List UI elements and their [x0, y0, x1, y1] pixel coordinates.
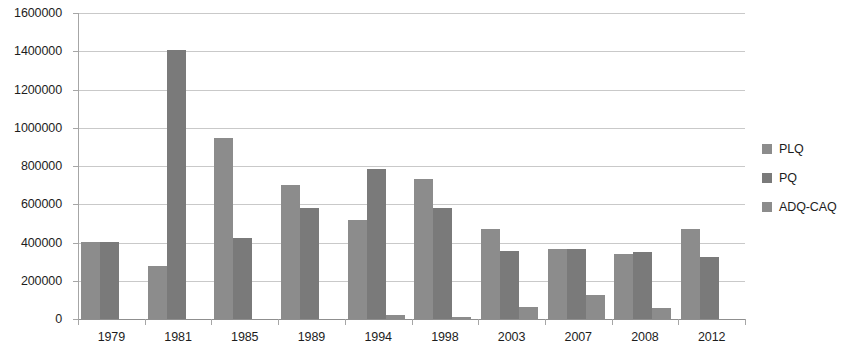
- legend-item-plq: PLQ: [762, 134, 842, 163]
- x-axis-tick-mark: [545, 319, 546, 325]
- x-axis-tick-mark: [745, 319, 746, 325]
- legend-swatch-icon: [762, 202, 772, 212]
- legend-item-adq-caq: ADQ-CAQ: [762, 192, 842, 221]
- x-axis-tick-label: 2008: [631, 330, 658, 344]
- x-axis-tick-mark: [345, 319, 346, 325]
- x-axis-tick-label: 2003: [498, 330, 525, 344]
- bar: [214, 138, 233, 319]
- x-axis-tick-mark: [612, 319, 613, 325]
- y-axis-tick-label: 200000: [21, 274, 62, 288]
- x-axis-tick-label: 1985: [231, 330, 258, 344]
- bar-chart: 1600000140000012000001000000800000600000…: [0, 0, 843, 351]
- x-axis-tick-mark: [678, 319, 679, 325]
- y-axis: 1600000140000012000001000000800000600000…: [0, 0, 72, 351]
- x-axis-tick-mark: [211, 319, 212, 325]
- bar: [300, 208, 319, 319]
- x-axis-tick-label: 1994: [364, 330, 391, 344]
- y-axis-tick-label: 1600000: [14, 6, 62, 20]
- plot-area: [78, 13, 745, 319]
- bar: [681, 229, 700, 319]
- legend-item-pq: PQ: [762, 163, 842, 192]
- bar: [100, 242, 119, 319]
- bar: [233, 238, 252, 319]
- bar: [367, 169, 386, 319]
- bar: [567, 249, 586, 319]
- bar: [167, 50, 186, 319]
- bar: [481, 229, 500, 319]
- bar: [433, 208, 452, 319]
- y-axis-tick-label: 0: [55, 312, 62, 326]
- x-axis-tick-mark: [412, 319, 413, 325]
- y-axis-tick-label: 600000: [21, 197, 62, 211]
- y-axis-tick-label: 800000: [21, 159, 62, 173]
- bar: [281, 185, 300, 319]
- bar: [614, 254, 633, 319]
- x-axis-tick-label: 1979: [98, 330, 125, 344]
- x-axis-tick-mark: [278, 319, 279, 325]
- gridline: [79, 13, 745, 14]
- bar: [348, 220, 367, 319]
- legend-item-label: PLQ: [779, 142, 804, 156]
- x-axis-tick-mark: [145, 319, 146, 325]
- bar: [519, 307, 538, 319]
- x-axis-tick-mark: [478, 319, 479, 325]
- x-axis-tick-label: 1989: [298, 330, 325, 344]
- bar: [148, 266, 167, 319]
- x-axis-tick-mark: [78, 319, 79, 325]
- y-axis-tick-label: 1400000: [14, 44, 62, 58]
- x-axis-tick-label: 1981: [164, 330, 191, 344]
- bar: [414, 179, 433, 319]
- legend-item-label: PQ: [779, 171, 797, 185]
- x-axis-tick-label: 1998: [431, 330, 458, 344]
- bar: [652, 308, 671, 319]
- legend-swatch-icon: [762, 173, 772, 183]
- bar: [500, 251, 519, 319]
- y-axis-tick-label: 1200000: [14, 83, 62, 97]
- bar: [633, 252, 652, 319]
- y-axis-tick-label: 1000000: [14, 121, 62, 135]
- bar: [81, 242, 100, 319]
- x-axis-tick-label: 2012: [698, 330, 725, 344]
- bar: [586, 295, 605, 319]
- chart-legend: PLQPQADQ-CAQ: [762, 134, 842, 221]
- x-axis-tick-label: 2007: [565, 330, 592, 344]
- y-axis-tick-label: 400000: [21, 236, 62, 250]
- legend-swatch-icon: [762, 144, 772, 154]
- legend-item-label: ADQ-CAQ: [779, 200, 837, 214]
- bar: [700, 257, 719, 319]
- bar: [548, 249, 567, 319]
